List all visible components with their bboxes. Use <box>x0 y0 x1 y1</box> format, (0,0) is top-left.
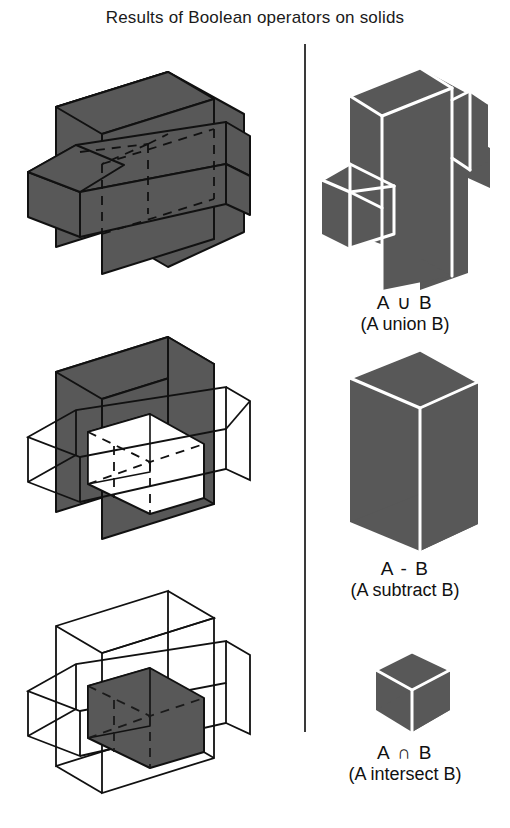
intersect-operator-label: A ∩ B <box>300 742 510 764</box>
result-subtract-caption: A - B (A subtract B) <box>300 558 510 601</box>
union-operator-label: A ∪ B <box>300 292 510 314</box>
intersect-words-label: (A intersect B) <box>300 764 510 786</box>
result-union-figure <box>322 58 492 290</box>
result-subtract-figure <box>344 346 484 558</box>
operands-subtract-figure <box>18 322 288 572</box>
union-words-label: (A union B) <box>300 314 510 336</box>
operands-intersect-figure <box>18 588 288 828</box>
subtract-words-label: (A subtract B) <box>300 580 510 602</box>
result-intersect-caption: A ∩ B (A intersect B) <box>300 742 510 785</box>
page-title: Results of Boolean operators on solids <box>0 8 510 28</box>
result-intersect-figure <box>372 648 454 736</box>
operands-union-figure <box>18 52 288 307</box>
vertical-divider <box>304 44 306 732</box>
result-union-caption: A ∪ B (A union B) <box>300 292 510 335</box>
subtract-operator-label: A - B <box>300 558 510 580</box>
